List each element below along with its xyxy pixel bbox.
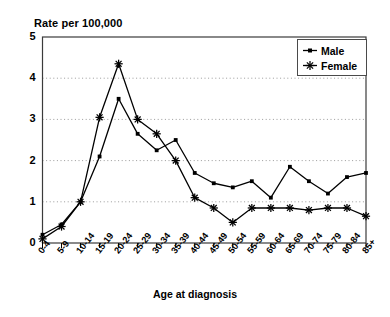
data-point-male [288,165,292,169]
data-point-male [326,192,330,196]
data-point-female [172,157,180,165]
data-point-male [174,138,178,142]
data-point-female [210,204,218,212]
data-point-male [307,179,311,183]
data-point-male [136,132,140,136]
y-tick-label: 4 [22,72,36,83]
data-point-female [153,130,161,138]
data-point-female [134,115,142,123]
data-point-female [57,222,65,230]
series-lines-group [43,64,367,239]
legend-label-female: Female [321,60,357,72]
series-line-female [43,64,367,239]
data-point-female [229,218,237,226]
data-point-male [117,97,121,101]
x-axis-title: Age at diagnosis [0,288,390,300]
asterisk-marker-icon [302,59,318,72]
data-point-male [345,175,349,179]
rate-by-age-line-chart: Rate per 100,000 012345 0-45-910-1415-19… [0,0,390,317]
y-tick-label: 2 [22,155,36,166]
square-line-marker-icon [302,44,318,57]
data-point-male [212,181,216,185]
y-tick-label: 1 [22,196,36,207]
data-point-male [193,171,197,175]
data-point-female [305,206,313,214]
data-point-female [95,113,103,121]
data-point-female [362,212,370,220]
y-tick-label: 0 [22,237,36,248]
y-tick-label: 5 [22,31,36,42]
data-point-female [76,198,84,206]
data-point-male [250,179,254,183]
data-point-male [155,148,159,152]
legend-label-male: Male [321,45,344,57]
data-point-male [98,155,102,159]
data-point-female [248,204,256,212]
chart-legend: Male Female [297,39,367,76]
series-markers-group [38,60,370,243]
data-point-female [191,194,199,202]
series-line-male [43,99,367,235]
data-point-female [115,60,123,68]
data-point-female [343,204,351,212]
y-tick-label: 3 [22,113,36,124]
data-point-female [267,204,275,212]
legend-item-male: Male [302,43,344,58]
gridlines-group [43,78,367,202]
data-point-female [324,204,332,212]
legend-item-female: Female [302,58,357,73]
data-point-male [364,171,368,175]
data-point-female [286,204,294,212]
data-point-male [231,185,235,189]
data-point-male [269,196,273,200]
